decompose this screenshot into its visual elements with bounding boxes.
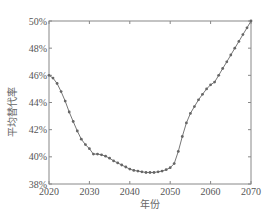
data-point-marker [100,153,103,156]
data-point-marker [132,169,135,172]
data-point-marker [229,54,232,57]
data-point-marker [173,162,176,165]
data-point-marker [161,170,164,173]
x-tick-label: 2030 [79,186,99,197]
data-point-marker [128,168,131,171]
data-point-marker [153,171,156,174]
x-tick-label: 2070 [241,186,261,197]
line-chart: 38%40%42%44%46%48%50% 202020302040205020… [0,0,274,216]
x-tick-label: 2040 [120,186,140,197]
y-tick-label: 48% [29,43,47,54]
y-tick-label: 50% [29,16,47,27]
x-axis-ticks: 202020302040205020602070 [39,21,261,197]
x-tick-label: 2060 [201,186,221,197]
data-point-marker [104,155,107,158]
data-point-marker [217,74,220,77]
y-tick-label: 42% [29,124,47,135]
data-point-marker [76,130,79,133]
data-point-marker [108,157,111,160]
data-point-marker [238,40,241,43]
y-axis-title: 平均替代率 [6,87,18,137]
data-point-marker [221,67,224,70]
data-point-marker [250,20,253,23]
y-tick-label: 40% [29,151,47,162]
data-point-marker [68,111,71,114]
data-point-marker [193,105,196,108]
x-axis-title: 年份 [140,198,160,210]
data-point-marker [88,147,91,150]
data-point-marker [197,98,200,101]
data-point-marker [137,170,140,173]
data-point-marker [209,83,212,86]
data-point-marker [157,170,160,173]
y-tick-label: 46% [29,70,47,81]
data-point-marker [213,81,216,84]
data-point-marker [112,160,115,163]
data-point-marker [141,170,144,173]
data-point-marker [181,135,184,138]
data-point-marker [56,82,59,85]
data-point-marker [48,74,51,77]
data-point-marker [72,120,75,123]
y-axis-ticks: 38%40%42%44%46%48%50% [29,16,251,190]
data-point-marker [116,162,119,165]
x-tick-label: 2050 [160,186,180,197]
data-point-marker [60,90,63,93]
data-point-marker [165,168,168,171]
data-point-marker [185,122,188,125]
y-tick-label: 44% [29,97,47,108]
data-point-marker [225,60,228,63]
data-point-marker [177,150,180,153]
data-point-marker [205,88,208,91]
data-point-marker [246,26,249,29]
series-markers [48,20,253,174]
data-point-marker [92,153,95,156]
data-point-marker [233,47,236,50]
data-point-marker [145,171,148,174]
plot-frame [49,21,251,184]
series-line [49,21,251,173]
data-point-marker [84,143,87,146]
data-point-marker [149,171,152,174]
data-point-marker [169,166,172,169]
data-point-marker [96,153,99,156]
x-tick-label: 2020 [39,186,59,197]
data-point-marker [124,166,127,169]
data-point-marker [64,100,67,103]
data-point-marker [189,112,192,115]
data-point-marker [201,93,204,96]
data-point-marker [242,33,245,36]
data-point-marker [52,77,55,80]
data-point-marker [80,138,83,141]
data-point-marker [120,164,123,167]
